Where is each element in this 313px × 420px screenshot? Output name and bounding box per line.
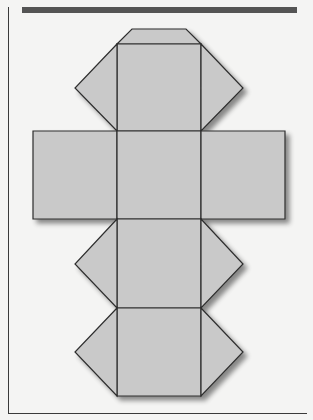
face-right-triangle-1: [201, 44, 243, 131]
face-right-rectangle: [201, 131, 285, 219]
face-square-3: [117, 219, 201, 308]
face-right-triangle-4: [201, 308, 243, 396]
face-left-triangle-3: [75, 219, 117, 308]
face-left-triangle-1: [75, 44, 117, 131]
face-square-1: [117, 44, 201, 131]
face-left-rectangle: [33, 131, 117, 219]
face-right-triangle-3: [201, 219, 243, 308]
face-square-2: [117, 131, 201, 219]
net-diagram: [0, 0, 313, 420]
face-left-triangle-4: [75, 308, 117, 396]
face-square-4: [117, 308, 201, 396]
face-top-trapezoid: [117, 29, 201, 44]
